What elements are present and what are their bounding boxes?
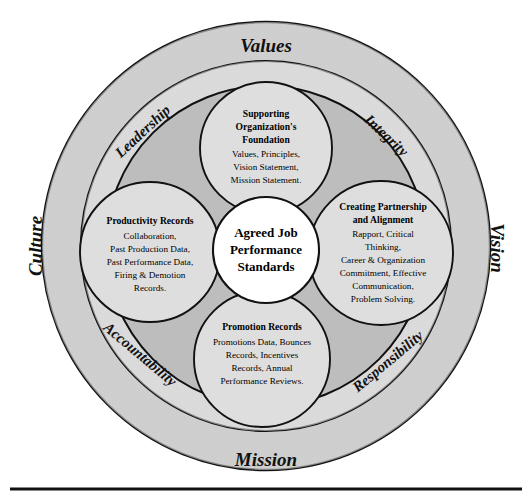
outer-ring-label-vision: Vision [487,223,508,273]
petal-body-line-6: Problem Solving. [351,294,415,304]
petal-title-line-1: Productivity Records [107,215,194,226]
core-line-3: Standards [237,259,294,274]
core-line-1: Agreed Job [234,225,298,240]
petal-body-line-3: Mission Statement. [231,175,302,185]
petal-title-line-1: Promotion Records [222,321,302,332]
petal-body-line-3: Past Performance Data, [107,257,193,267]
petal-title-line-3: Foundation [242,134,290,145]
petal-body-line-1: Values, Principles, [232,149,300,159]
outer-ring-label-mission: Mission [234,449,297,470]
core-label: Agreed Job Performance Standards [230,225,302,274]
petal-body-line-3: Career & Organization [341,255,425,265]
petal-title-line-1: Creating Partnership [339,201,427,212]
petal-body-line-2: Records, Incentives [226,350,299,360]
petal-body-line-4: Commitment, Effective [340,268,427,278]
petal-body-line-1: Collaboration, [124,231,177,241]
petal-circle-supporting-organizations-foundation[interactable] [200,82,332,214]
petal-body-line-4: Performance Reviews. [220,376,303,386]
outer-ring-label-values: Values [240,35,292,56]
petal-body-line-2: Vision Statement, [233,162,298,172]
petal-body-line-5: Records. [134,283,166,293]
petal-body-line-2: Thinking, [365,242,401,252]
core-line-2: Performance [230,242,302,257]
outer-ring-label-culture: Culture [25,215,46,276]
petal-title-line-2: Organization's [236,121,297,132]
concentric-circles-diagram: Agreed Job Performance Standards Support… [0,0,532,500]
petal-body-line-1: Promotions Data, Bounces [213,337,312,347]
petal-title-line-1: Supporting [243,108,290,119]
petal-title-line-2: and Alignment [353,214,414,225]
petal-body-line-1: Rapport, Critical [352,229,414,239]
petal-body-line-3: Records, Annual [231,363,293,373]
petal-label-promotion-records: Promotion Records Promotions Data, Bounc… [213,321,312,386]
diagram-canvas: Agreed Job Performance Standards Support… [0,0,532,500]
petal-body-line-2: Past Production Data, [110,244,190,254]
petal-body-line-5: Communication, [352,281,414,291]
petal-body-line-4: Firing & Demotion [115,270,186,280]
